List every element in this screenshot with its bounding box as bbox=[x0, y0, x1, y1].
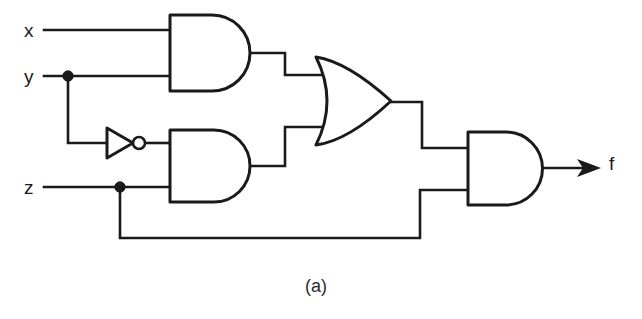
not-gate-1-body bbox=[107, 128, 133, 158]
or-gate-1-body bbox=[316, 57, 391, 145]
wire-and2-to-or bbox=[250, 127, 322, 166]
input-label-y: y bbox=[24, 67, 34, 86]
not-gate-1-bubble-icon bbox=[133, 137, 145, 149]
circuit-schematic bbox=[0, 0, 642, 319]
logic-circuit-figure: x y z f (a) bbox=[0, 0, 642, 319]
input-label-z: z bbox=[24, 178, 34, 197]
wire-or-to-and3 bbox=[391, 102, 468, 148]
junction-dot-z bbox=[115, 182, 125, 192]
and-gate-3-body bbox=[468, 132, 543, 205]
and-gate-2-body bbox=[170, 130, 250, 202]
figure-caption: (a) bbox=[305, 277, 327, 295]
junction-dot-y bbox=[63, 71, 73, 81]
wire-y-branch-to-not bbox=[68, 76, 107, 143]
output-label-f: f bbox=[609, 154, 614, 173]
and-gate-1-body bbox=[170, 15, 250, 91]
wire-and1-to-or bbox=[250, 53, 322, 75]
input-label-x: x bbox=[24, 21, 34, 40]
